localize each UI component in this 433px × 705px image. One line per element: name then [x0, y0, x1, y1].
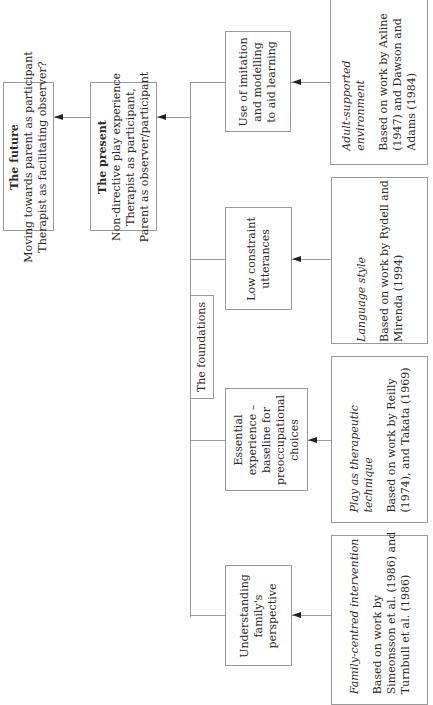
- source-line: Turnbull et al. (1986): [398, 532, 412, 694]
- component-line: utterances: [259, 217, 273, 301]
- source-line: (1974), and Takata (1969): [398, 367, 412, 512]
- future-title: The future: [8, 51, 22, 262]
- present-line: Therapist as participant,: [124, 71, 138, 241]
- source-title: technique: [361, 367, 375, 512]
- component-line: Understanding: [238, 574, 252, 658]
- component-line: perspective: [266, 574, 280, 658]
- component-line: experience –: [246, 394, 260, 484]
- component-box-essential-experience: Essential experience – baseline for preo…: [225, 388, 308, 491]
- future-text: The future Moving towards parent as part…: [8, 51, 50, 262]
- component-line: family's: [252, 574, 266, 658]
- connector-branch-2: [190, 259, 226, 260]
- arrow-to-component-2-icon: [292, 256, 301, 262]
- arrow-to-future-icon: [54, 114, 63, 120]
- arrow-to-present-icon: [157, 114, 166, 120]
- source-box-adult-supported: Adult-supported environment Based on wor…: [330, 0, 428, 165]
- component-box-low-constraint: Low constraint utterances: [225, 207, 292, 310]
- source-line: Based on work by Rydell and: [377, 180, 391, 342]
- component-line: choices: [288, 394, 302, 484]
- present-title: The present: [96, 71, 110, 241]
- component-text: Use of imitation and modelling to aid le…: [237, 37, 279, 126]
- source-title: Family-centred intervention: [347, 532, 361, 694]
- component-line: baseline for: [260, 394, 274, 484]
- component-line: Essential: [232, 394, 246, 484]
- connector-branch-4: [190, 615, 226, 616]
- source-text: Adult-supported environment Based on wor…: [340, 13, 419, 151]
- source-line: (1947) and Dawson and: [391, 13, 405, 151]
- component-line: to aid learning: [265, 37, 279, 126]
- component-line: and modelling: [251, 37, 265, 126]
- component-text: Essential experience – baseline for preo…: [232, 394, 302, 484]
- component-line: preoccupational: [274, 394, 288, 484]
- arrow-to-component-1-icon: [292, 79, 301, 85]
- source-line: Adams (1984): [405, 13, 419, 151]
- present-box: The present Non-directive play experienc…: [90, 82, 157, 231]
- connector-branch-3: [190, 440, 226, 441]
- arrow-to-component-4-icon: [292, 612, 301, 618]
- component-box-family-perspective: Understanding family's perspective: [225, 565, 292, 666]
- source-box-family-centred: Family-centred intervention Based on wor…: [331, 535, 428, 705]
- source-title: environment: [354, 13, 368, 151]
- future-box: The future Moving towards parent as part…: [3, 82, 54, 231]
- present-line: Non-directive play experience: [110, 71, 124, 241]
- source-line: Based on work by Axline: [377, 13, 391, 151]
- component-box-imitation: Use of imitation and modelling to aid le…: [225, 31, 291, 132]
- present-text: The present Non-directive play experienc…: [96, 71, 152, 241]
- source-title: Play as therapeutic: [347, 367, 361, 512]
- source-line: Based on work by Reilly: [384, 367, 398, 512]
- foundations-box: The foundations: [190, 295, 214, 399]
- source-title: Adult-supported: [340, 13, 354, 151]
- component-line: Use of imitation: [237, 37, 251, 126]
- source-line: Mirenda (1994): [391, 180, 405, 342]
- source-box-play-therapeutic: Play as therapeutic technique Based on w…: [331, 356, 428, 523]
- source-text: Language style Based on work by Rydell a…: [354, 180, 405, 342]
- source-text: Family-centred intervention Based on wor…: [347, 532, 412, 694]
- connector-branch-1: [190, 82, 226, 83]
- source-text: Play as therapeutic technique Based on w…: [347, 367, 412, 512]
- component-text: Low constraint utterances: [245, 217, 273, 301]
- source-title: Language style: [354, 180, 368, 342]
- future-line: Therapist as facilitating observer?: [36, 51, 50, 262]
- source-line: Simeonsson et al. (1986) and: [384, 532, 398, 694]
- component-text: Understanding family's perspective: [238, 574, 280, 658]
- arrow-to-component-3-icon: [308, 437, 317, 443]
- present-line: Parent as observer/participant: [138, 71, 152, 241]
- future-line: Moving towards parent as participant: [22, 51, 36, 262]
- source-box-language-style: Language style Based on work by Rydell a…: [331, 177, 428, 344]
- foundations-label: The foundations: [195, 302, 209, 392]
- component-line: Low constraint: [245, 217, 259, 301]
- source-line: Based on work by: [370, 532, 384, 694]
